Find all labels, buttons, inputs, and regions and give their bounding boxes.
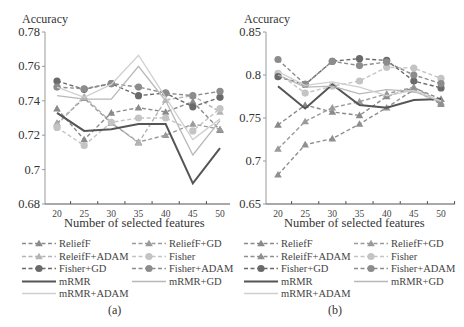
- legend-line-icon: [132, 251, 166, 262]
- legend-marker-circle-icon: [257, 265, 264, 272]
- legend-label: Fisher+GD: [281, 263, 328, 274]
- x-axis-title: Number of selected features: [64, 216, 205, 231]
- legend-item: Fisher+ADAM: [132, 263, 233, 274]
- legend-item: mRMR: [244, 276, 313, 287]
- data-point-marker-triangle-icon: [189, 120, 197, 127]
- legend-item: ReleifF+ADAM: [22, 251, 129, 262]
- legend-item: Fisher+GD: [22, 263, 106, 274]
- legend-line-icon: [22, 238, 56, 249]
- series-fisher-gd: [274, 55, 444, 91]
- x-tick-label: 20: [273, 209, 283, 219]
- legend-item: mRMR: [22, 276, 91, 287]
- legend-item: mRMR+ADAM: [244, 288, 351, 299]
- legend-label: Fisher+GD: [59, 263, 106, 274]
- legend-marker-circle-icon: [367, 265, 374, 272]
- data-point-marker-circle-icon: [189, 127, 196, 134]
- data-point-marker-circle-icon: [108, 119, 115, 126]
- legend-marker-circle-icon: [145, 252, 152, 259]
- y-tick-label: 0.75: [239, 111, 261, 125]
- legend-item: Fisher+ADAM: [354, 263, 455, 274]
- legend-line-icon: [354, 263, 388, 274]
- panel-caption: (a): [108, 303, 121, 318]
- legend-label: Fisher: [391, 251, 417, 262]
- legend-marker-circle-icon: [145, 265, 152, 272]
- y-tick-label: 0.8: [245, 68, 261, 82]
- data-point-marker-circle-icon: [135, 83, 142, 90]
- legend-label: ReliefF+GD: [391, 238, 444, 249]
- data-point-marker-circle-icon: [302, 89, 309, 96]
- legend-line-icon: [22, 263, 56, 274]
- legend-label: ReleifF+ADAM: [59, 251, 129, 262]
- legend-item: mRMR+GD: [132, 276, 222, 287]
- legend-label: mRMR: [59, 276, 91, 287]
- data-point-marker-circle-icon: [356, 55, 363, 62]
- line-chart-a: 0.680.70.720.740.760.7820253035404550: [0, 0, 232, 235]
- legend-label: mRMR+ADAM: [281, 288, 351, 299]
- legend-line-icon: [132, 276, 166, 287]
- legend-line-icon: [22, 276, 56, 287]
- line-chart-b: 0.650.70.750.80.8520253035404550: [232, 0, 464, 235]
- data-point-marker-circle-icon: [81, 142, 88, 149]
- legend-label: mRMR: [281, 276, 313, 287]
- y-tick-label: 0.85: [239, 25, 261, 39]
- y-tick-label: 0.7: [24, 163, 40, 177]
- legend-label: ReliefF: [59, 238, 91, 249]
- legend-line-icon: [354, 251, 388, 262]
- legend-item: mRMR+GD: [354, 276, 444, 287]
- data-point-marker-circle-icon: [356, 77, 363, 84]
- axes: 0.680.70.720.740.760.7820253035404550: [18, 25, 230, 219]
- data-point-marker-circle-icon: [216, 105, 223, 112]
- legend-item: mRMR+ADAM: [22, 288, 129, 299]
- data-point-marker-triangle-icon: [80, 136, 88, 143]
- data-point-marker-circle-icon: [410, 71, 417, 78]
- data-point-marker-circle-icon: [189, 92, 196, 99]
- legend-line-icon: [244, 276, 278, 287]
- data-point-marker-circle-icon: [410, 65, 417, 72]
- data-point-marker-circle-icon: [162, 114, 169, 121]
- legend-line-icon: [244, 251, 278, 262]
- x-tick-label: 20: [52, 209, 62, 219]
- legend-item: ReliefF: [22, 238, 91, 249]
- legend-line-icon: [244, 238, 278, 249]
- legend-line-icon: [244, 263, 278, 274]
- legend-marker-circle-icon: [367, 252, 374, 259]
- data-point-marker-circle-icon: [135, 92, 142, 99]
- legend-line-icon: [354, 276, 388, 287]
- data-point-marker-circle-icon: [189, 103, 196, 110]
- legend-label: Fisher+ADAM: [169, 263, 233, 274]
- data-point-marker-triangle-icon: [356, 120, 364, 127]
- y-tick-label: 0.7: [245, 154, 261, 168]
- data-point-marker-circle-icon: [383, 59, 390, 66]
- data-point-marker-triangle-icon: [301, 141, 309, 148]
- y-tick-label: 0.72: [18, 128, 40, 142]
- legend-line-icon: [354, 238, 388, 249]
- y-tick-label: 0.68: [18, 197, 40, 211]
- y-axis-title: Accuracy: [244, 12, 290, 27]
- legend-item: Fisher+GD: [244, 263, 328, 274]
- x-axis-title: Number of selected features: [284, 216, 425, 231]
- x-tick-label: 50: [215, 209, 225, 219]
- legend-label: ReliefF+GD: [169, 238, 222, 249]
- chart-panel-b: 0.650.70.750.80.8520253035404550 Accurac…: [232, 0, 464, 327]
- legend-line-icon: [244, 288, 278, 299]
- y-tick-label: 0.78: [18, 25, 40, 39]
- legend-label: Fisher: [169, 251, 195, 262]
- legend-line-icon: [132, 238, 166, 249]
- data-point-marker-circle-icon: [274, 56, 281, 63]
- panel-caption: (b): [328, 303, 342, 318]
- legend-label: mRMR+GD: [391, 276, 444, 287]
- data-point-marker-circle-icon: [329, 58, 336, 65]
- y-tick-label: 0.74: [18, 94, 41, 108]
- legend-label: mRMR+GD: [169, 276, 222, 287]
- y-tick-label: 0.76: [18, 59, 40, 73]
- legend-line-icon: [22, 251, 56, 262]
- legend-item: ReliefF+GD: [132, 238, 222, 249]
- legend-label: Fisher+ADAM: [391, 263, 455, 274]
- legend-label: ReleifF+ADAM: [281, 251, 351, 262]
- data-point-marker-triangle-icon: [53, 105, 61, 112]
- legend-marker-circle-icon: [35, 265, 42, 272]
- data-point-marker-circle-icon: [81, 85, 88, 92]
- legend-label: mRMR+ADAM: [59, 288, 129, 299]
- data-point-marker-triangle-icon: [135, 104, 143, 111]
- data-point-marker-circle-icon: [437, 80, 444, 87]
